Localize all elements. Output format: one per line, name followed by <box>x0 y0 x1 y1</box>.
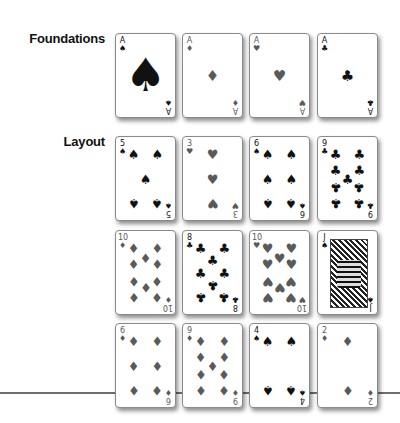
card-corner-index: J♠ <box>320 234 329 250</box>
card-rank: A <box>164 106 173 114</box>
heart-pip-icon: ♥ <box>206 172 220 185</box>
card-pips: ♣♣♣♣♣♣♣♣♣ <box>318 137 377 220</box>
spade-pip-icon: ♠ <box>261 197 275 210</box>
foundations-label: Foundations <box>29 31 105 46</box>
spade-icon: ♠ <box>320 242 329 250</box>
ornate-spade-icon: ♠ <box>125 52 166 98</box>
diamond-pip-icon: ♦ <box>150 334 164 347</box>
diamond-pip-icon: ♦ <box>194 334 208 347</box>
card-pips: ♣ <box>318 34 377 117</box>
club-pip-icon: ♣ <box>194 266 208 279</box>
diamond-pip-icon: ♦ <box>127 359 141 372</box>
heart-pip-icon: ♥ <box>261 291 275 304</box>
spade-pip-icon: ♠ <box>139 172 153 185</box>
layout-card-6-of-diamonds[interactable]: 6♦6♦♦♦♦♦♦♦ <box>115 323 176 408</box>
layout-card-10-of-diamonds[interactable]: 10♦10♦♦♦♦♦♦♦♦♦♦♦ <box>115 230 176 315</box>
card-pips: ♦ <box>183 34 242 117</box>
club-pip-icon: ♣ <box>206 254 220 267</box>
foundation-card-a-of-spades[interactable]: A♠A♠♠ <box>115 33 176 118</box>
club-pip-icon: ♣ <box>352 197 366 210</box>
spade-pip-icon: ♠ <box>284 197 298 210</box>
card-pips: ♦♦♦♦♦♦♦♦♦ <box>183 324 242 407</box>
layout-card-9-of-clubs[interactable]: 9♣9♣♣♣♣♣♣♣♣♣♣ <box>317 136 378 221</box>
club-pip-icon: ♣ <box>329 180 343 193</box>
foundation-card-a-of-hearts[interactable]: A♥A♥♥ <box>249 33 310 118</box>
club-pip-icon: ♣ <box>329 197 343 210</box>
club-pip-icon: ♣ <box>217 241 231 254</box>
layout-card-5-of-spades[interactable]: 5♠5♠♠♠♠♠♠ <box>115 136 176 221</box>
diamond-pip-icon: ♦ <box>150 384 164 397</box>
spade-pip-icon: ♠ <box>150 147 164 160</box>
spade-pip-icon: ♠ <box>284 147 298 160</box>
layout-card-6-of-spades[interactable]: 6♠6♠♠♠♠♠♠♠ <box>249 136 310 221</box>
spade-pip-icon: ♠ <box>284 172 298 185</box>
heart-pip-icon: ♥ <box>284 291 298 304</box>
spade-pip-icon: ♠ <box>261 384 275 397</box>
card-pips: ♥♥♥ <box>183 137 242 220</box>
heart-pip-icon: ♥ <box>206 147 220 160</box>
diamond-pip-icon: ♦ <box>341 384 355 397</box>
heart-pip-icon: ♥ <box>273 69 287 82</box>
club-pip-icon: ♣ <box>217 266 231 279</box>
diamond-pip-icon: ♦ <box>217 367 231 380</box>
spade-pip-icon: ♠ <box>261 334 275 347</box>
club-pip-icon: ♣ <box>329 147 343 160</box>
spade-pip-icon: ♠ <box>261 147 275 160</box>
spade-pip-icon: ♠ <box>284 334 298 347</box>
card-pips: ♠♠♠♠ <box>250 324 309 407</box>
heart-pip-icon: ♥ <box>284 258 298 271</box>
spade-pip-icon: ♠ <box>127 197 141 210</box>
diamond-pip-icon: ♦ <box>341 334 355 347</box>
card-pips: ♦♦♦♦♦♦♦♦♦♦ <box>116 231 175 314</box>
card-pips: ♠♠♠♠♠ <box>116 137 175 220</box>
jack-face-artwork <box>330 239 368 308</box>
foundation-card-a-of-clubs[interactable]: A♣A♣♣ <box>317 33 378 118</box>
diamond-pip-icon: ♦ <box>127 384 141 397</box>
club-pip-icon: ♣ <box>352 180 366 193</box>
diamond-pip-icon: ♦ <box>150 359 164 372</box>
club-pip-icon: ♣ <box>194 241 208 254</box>
card-pips: ♠♠♠♠♠♠ <box>250 137 309 220</box>
foundation-card-a-of-diamonds[interactable]: A♦A♦♦ <box>182 33 243 118</box>
heart-pip-icon: ♥ <box>261 258 275 271</box>
layout-card-j-of-spades[interactable]: J♠J♠ <box>317 230 378 315</box>
layout-card-8-of-clubs[interactable]: 8♣8♣♣♣♣♣♣♣♣♣ <box>182 230 243 315</box>
diamond-pip-icon: ♦ <box>217 384 231 397</box>
layout-label: Layout <box>64 134 105 149</box>
club-pip-icon: ♣ <box>352 147 366 160</box>
heart-pip-icon: ♥ <box>206 197 220 210</box>
card-pips: ♦♦♦♦♦♦ <box>116 324 175 407</box>
diamond-pip-icon: ♦ <box>127 334 141 347</box>
club-pip-icon: ♣ <box>217 291 231 304</box>
layout-card-3-of-hearts[interactable]: 3♥3♥♥♥♥ <box>182 136 243 221</box>
spade-pip-icon: ♠ <box>284 384 298 397</box>
layout-card-10-of-hearts[interactable]: 10♥10♥♥♥♥♥♥♥♥♥♥♥ <box>249 230 310 315</box>
card-pips: ♣♣♣♣♣♣♣♣ <box>183 231 242 314</box>
club-pip-icon: ♣ <box>194 291 208 304</box>
layout-card-4-of-spades[interactable]: 4♠4♠♠♠♠♠ <box>249 323 310 408</box>
card-pips: ♥♥♥♥♥♥♥♥♥♥ <box>250 231 309 314</box>
diamond-pip-icon: ♦ <box>206 69 220 82</box>
spade-pip-icon: ♠ <box>127 147 141 160</box>
diamond-pip-icon: ♦ <box>150 291 164 304</box>
diamond-pip-icon: ♦ <box>127 291 141 304</box>
club-pip-icon: ♣ <box>341 69 355 82</box>
diamond-pip-icon: ♦ <box>150 258 164 271</box>
diamond-pip-icon: ♦ <box>194 384 208 397</box>
card-pips: ♦♦ <box>318 324 377 407</box>
layout-card-2-of-diamonds[interactable]: 2♦2♦♦♦ <box>317 323 378 408</box>
diamond-pip-icon: ♦ <box>194 367 208 380</box>
spade-pip-icon: ♠ <box>150 197 164 210</box>
spade-pip-icon: ♠ <box>261 172 275 185</box>
diamond-pip-icon: ♦ <box>127 258 141 271</box>
card-pips: ♥ <box>250 34 309 117</box>
layout-card-9-of-diamonds[interactable]: 9♦9♦♦♦♦♦♦♦♦♦♦ <box>182 323 243 408</box>
diamond-pip-icon: ♦ <box>217 334 231 347</box>
